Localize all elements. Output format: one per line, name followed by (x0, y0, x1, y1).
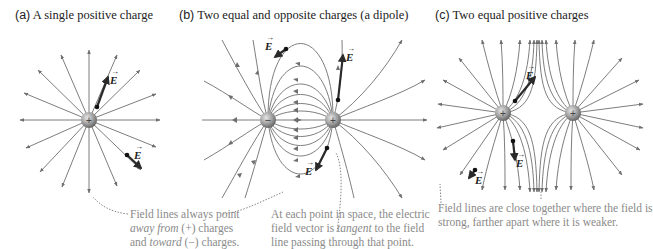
panel-a-letter: (a) (15, 8, 30, 22)
panel-a-title: (a) A single positive charge (15, 8, 153, 23)
panel-c-title-text: Two equal positive charges (452, 8, 588, 22)
note-field-direction: Field lines always point away from (+) c… (130, 207, 240, 249)
charge-b-positive: + (325, 112, 341, 128)
charge-c-left: + (495, 105, 511, 121)
charge-c-right: + (565, 105, 581, 121)
svg-text:+: + (570, 108, 576, 119)
svg-text:+: + (86, 115, 92, 126)
e-vector-label: E→ (110, 74, 117, 86)
e-vector-label: E→ (516, 157, 523, 169)
panel-c-letter: (c) (435, 8, 450, 22)
panel-c-title: (c) Two equal positive charges (435, 8, 589, 23)
note-line: and toward (−) charges. (130, 235, 240, 249)
note-line: field vector is tangent to the field (271, 221, 430, 235)
note-line: line passing through that point. (271, 235, 430, 249)
panel-b-title: (b) Two equal and opposite charges (a di… (179, 8, 409, 23)
e-vector-label: E→ (346, 51, 353, 63)
panel-a-title-text: A single positive charge (33, 8, 153, 22)
panel-c-field-lines (437, 40, 643, 192)
e-vector-label: E→ (475, 174, 482, 186)
e-vector-label: E→ (265, 40, 272, 52)
e-vector-label: E→ (526, 69, 533, 81)
svg-text:−: − (265, 114, 271, 126)
charge-b-negative: − (260, 112, 276, 128)
note-line: Field lines always point (130, 207, 240, 221)
e-vector-label: E→ (134, 149, 141, 161)
panel-b-title-text: Two equal and opposite charges (a dipole… (197, 8, 408, 22)
svg-text:+: + (500, 108, 506, 119)
note-line: away from (+) charges (130, 221, 240, 235)
note-tangent: At each point in space, the electric fie… (271, 207, 430, 249)
charge-a: + (81, 112, 97, 128)
note-line: strong, farther apart where it is weaker… (438, 215, 653, 229)
note-line: At each point in space, the electric (271, 207, 430, 221)
e-vector-label: E→ (305, 165, 312, 177)
note-line: Field lines are close together where the… (438, 201, 653, 215)
svg-text:+: + (330, 115, 336, 126)
panel-b-letter: (b) (179, 8, 194, 22)
note-density: Field lines are close together where the… (438, 201, 653, 229)
